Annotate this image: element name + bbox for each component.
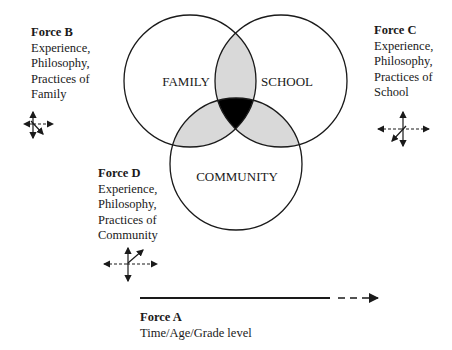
force-d-line: Community [98,228,158,244]
force-b-line: Experience, [31,41,90,57]
community-label: COMMUNITY [196,169,278,184]
force-d-line: Experience, [98,182,158,198]
force-b-title: Force B [31,25,90,41]
force-c-line: Philosophy, [374,54,433,70]
force-d-arrows-icon [104,248,157,281]
force-a-title: Force A [140,310,252,326]
force-c-text: Force C Experience, Philosophy, Practice… [374,23,433,101]
force-d-line: Practices of [98,213,158,229]
force-b-text: Force B Experience, Philosophy, Practice… [31,25,90,103]
force-d-line: Philosophy, [98,197,158,213]
force-c-line: School [374,85,433,101]
force-a-line: Time/Age/Grade level [140,326,252,342]
school-label: SCHOOL [261,74,313,89]
force-c-line: Practices of [374,70,433,86]
force-b-line: Family [31,87,90,103]
force-c-title: Force C [374,23,433,39]
force-b-line: Philosophy, [31,56,90,72]
family-label: FAMILY [162,74,210,89]
force-a-text: Force A Time/Age/Grade level [140,310,252,341]
force-b-line: Practices of [31,72,90,88]
force-b-arrows-icon [24,112,53,138]
force-c-arrows-icon [378,112,429,146]
force-d-title: Force D [98,166,158,182]
force-d-text: Force D Experience, Philosophy, Practice… [98,166,158,244]
force-c-line: Experience, [374,39,433,55]
